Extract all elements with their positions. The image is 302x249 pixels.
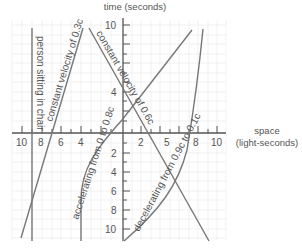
- x-label-left-8: 8: [38, 137, 44, 148]
- space-axis-title-line1: space: [232, 125, 302, 136]
- spacetime-diagram: 10 4 2 4 6 8 10 10 8 6 4 2 5 8 10: [0, 0, 302, 249]
- x-label-right-10: 10: [211, 137, 223, 148]
- x-label-right-5: 5: [164, 137, 170, 148]
- x-label-right-2: 2: [138, 137, 144, 148]
- x-label-left-6: 6: [58, 137, 64, 148]
- time-axis-ticks: [123, 25, 130, 229]
- y-label-bottom-4: 4: [111, 167, 117, 178]
- label-constant-0-3c: constant velocity of 0.3c: [43, 17, 85, 122]
- x-label-left-4: 4: [78, 137, 84, 148]
- space-axis-title-line2: (light-seconds): [232, 137, 302, 148]
- x-label-right-8: 8: [193, 137, 199, 148]
- y-label-bottom-2: 2: [111, 148, 117, 159]
- label-accelerating: accelerating from 0 to 0.8c: [69, 105, 116, 220]
- y-label-top-10: 10: [105, 20, 117, 31]
- y-label-top-4: 4: [111, 87, 117, 98]
- y-label-bottom-10: 10: [105, 224, 117, 235]
- y-label-bottom-8: 8: [111, 205, 117, 216]
- time-axis-title: time (seconds): [90, 1, 180, 12]
- y-label-bottom-6: 6: [111, 186, 117, 197]
- x-label-left-10: 10: [16, 137, 28, 148]
